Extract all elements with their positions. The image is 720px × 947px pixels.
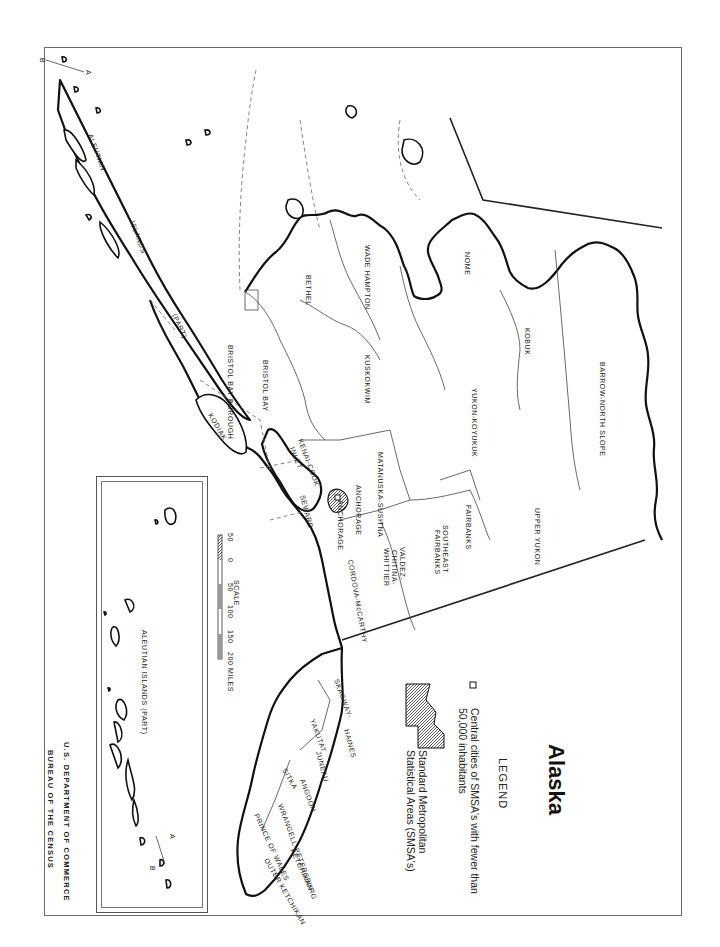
scale-tick: 150 (227, 630, 234, 643)
aleutian-island (96, 108, 100, 113)
label-se-fairbanks-1: SOUTHEAST (442, 525, 449, 573)
legend-item-smsa: Standard Metropolitan Statistical Areas … (405, 750, 429, 872)
scale-tick: 200 MILES (227, 652, 234, 692)
label-se-fairbanks-2: FAIRBANKS (434, 530, 441, 575)
alaska-peninsula (58, 80, 250, 420)
label-valdez-3: WHITTIER (383, 548, 390, 587)
scale-tick: 100 (227, 605, 234, 618)
division-line (300, 680, 330, 750)
label-valdez-1: VALDEZ- (399, 547, 406, 580)
division-line (245, 292, 325, 440)
label-bethel: BETHEL (305, 275, 312, 306)
label-wade-hampton: WADE HAMPTON (364, 245, 371, 310)
division-line (340, 430, 410, 520)
label-bristol-bay: BRISTOL BAY (262, 360, 269, 412)
section-marker-b: B (39, 58, 46, 63)
division-line (555, 250, 580, 490)
island (346, 106, 356, 118)
legend-city-symbol (470, 682, 476, 688)
legend-smsa-symbol (406, 684, 444, 748)
label-barrow: BARROW-NORTH SLOPE (599, 362, 606, 457)
label-bristol-bay-borough: BRISTOL BAY BOROUGH (227, 345, 234, 439)
label-anchorage: ANCHORAGE (355, 485, 362, 536)
label-kuskokwim: KUSKOKWIM (364, 355, 371, 404)
label-angoon: ANGOON (299, 778, 317, 813)
st-lawrence-island (402, 139, 423, 164)
division-line (400, 266, 445, 390)
aleutian-island (62, 57, 66, 62)
aleutian-island (205, 130, 210, 135)
label-yukon-koyukuk: YUKON-KOYUKUK (471, 388, 478, 457)
legend-item-city: Central cities of SMSA's with fewer than… (457, 708, 481, 894)
scale-tick: 50 (227, 583, 234, 592)
label-sitka: SITKA (281, 767, 299, 791)
label-kobuk: KOBUK (524, 328, 531, 356)
label-valdez-2: CHITINA- (391, 550, 398, 585)
scale-tick: 50 (227, 533, 234, 542)
label-aleutian: ALEUTIAN (87, 133, 107, 172)
scale-bar (218, 535, 222, 659)
sea-boundary (239, 70, 256, 290)
label-haines: HAINES (343, 728, 357, 758)
map-title: Alaska (543, 744, 569, 815)
section-marker-a: A (85, 70, 92, 75)
agency-credit: U.S. DEPARTMENT OF COMMERCE BUREAU OF TH… (42, 742, 74, 902)
label-nome: NOME (464, 252, 471, 275)
inset-aleutian-islands (96, 476, 208, 913)
label-upper-yukon: UPPER YUKON (534, 508, 541, 565)
aleutian-island (74, 87, 78, 92)
label-cordova: CORDOVA-McCARTHY (347, 559, 369, 644)
division-line (500, 290, 520, 410)
label-matanuska: MATANUSKA-SUSITNA (377, 452, 384, 537)
aleutian-island (76, 160, 94, 195)
aleutian-island (100, 222, 119, 258)
label-fairbanks: FAIRBANKS (465, 505, 472, 550)
label-islands: ISLANDS (129, 220, 147, 254)
label-seward: SEWARD (299, 494, 315, 529)
aleutian-island (64, 130, 86, 161)
aleutian-island (186, 140, 191, 145)
canada-border (450, 118, 662, 228)
label-anchorage-city: ANCHORAGE (337, 500, 344, 551)
scale-tick: 0 (227, 558, 234, 563)
legend-heading: LEGEND (497, 758, 509, 809)
aleutian-island (86, 215, 91, 220)
division-line (410, 490, 490, 540)
nunivak-island (286, 199, 303, 218)
label-part: (PART) (170, 312, 188, 339)
label-yakutat: YAKUTAT (309, 718, 328, 753)
